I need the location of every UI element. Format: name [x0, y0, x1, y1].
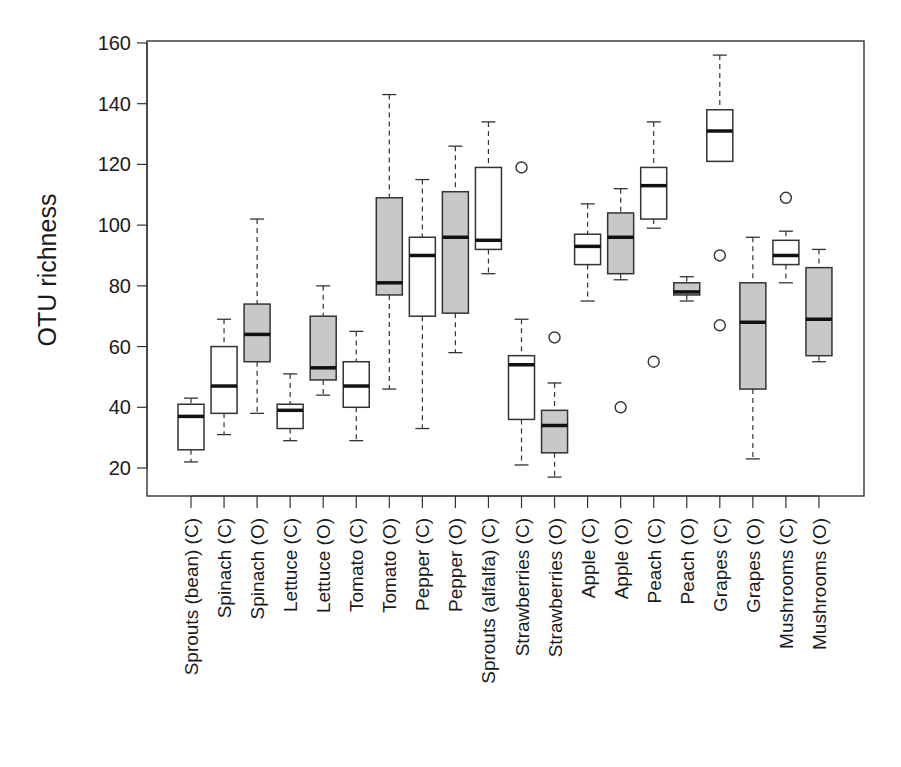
iqr-box: [211, 347, 237, 414]
box-7: [376, 95, 402, 389]
outlier-point: [780, 192, 791, 203]
iqr-box: [310, 316, 336, 380]
y-tick-label: 60: [109, 336, 131, 358]
outlier-point: [615, 402, 626, 413]
outlier-point: [648, 356, 659, 367]
y-axis-label: OTU richness: [33, 194, 61, 347]
x-tick-label: Pepper (O): [445, 518, 466, 612]
iqr-box: [575, 234, 601, 264]
outlier-point: [714, 250, 725, 261]
box-19: [773, 192, 799, 283]
boxplot-chart: 20406080100120140160 Sprouts (bean) (C)S…: [0, 0, 901, 767]
iqr-box: [442, 192, 468, 313]
box-1: [178, 398, 204, 462]
iqr-box: [608, 213, 634, 274]
box-11: [509, 162, 535, 465]
x-tick-label: Apple (C): [578, 518, 599, 598]
x-tick-label: Lettuce (C): [280, 518, 301, 612]
outlier-point: [549, 332, 560, 343]
box-18: [740, 237, 766, 459]
box-3: [244, 219, 270, 413]
box-9: [442, 146, 468, 352]
x-tick-label: Spinach (O): [247, 518, 268, 619]
x-tick-label: Grapes (O): [743, 518, 764, 613]
x-tick-label: Mushrooms (C): [776, 518, 797, 649]
x-tick-label: Strawberries (C): [512, 518, 533, 656]
box-16: [674, 277, 700, 301]
x-tick-label: Pepper (C): [412, 518, 433, 611]
y-axis: 20406080100120140160: [98, 32, 147, 479]
box-12: [542, 332, 568, 477]
plot-border: [147, 41, 864, 496]
box-6: [343, 331, 369, 440]
iqr-box: [409, 237, 435, 316]
plot-frame: [147, 41, 864, 496]
box-13: [575, 204, 601, 301]
x-axis: Sprouts (bean) (C)Spinach (C)Spinach (O)…: [181, 496, 830, 684]
box-17: [707, 55, 733, 331]
x-tick-label: Strawberries (O): [545, 518, 566, 657]
iqr-box: [542, 410, 568, 453]
y-tick-label: 80: [109, 275, 131, 297]
x-tick-label: Grapes (C): [710, 518, 731, 612]
x-tick-label: Mushrooms (O): [809, 518, 830, 650]
y-tick-label: 40: [109, 396, 131, 418]
outlier-point: [714, 320, 725, 331]
iqr-box: [707, 110, 733, 162]
y-tick-label: 140: [98, 93, 131, 115]
iqr-box: [806, 268, 832, 356]
box-5: [310, 286, 336, 395]
iqr-box: [740, 283, 766, 389]
x-tick-label: Apple (O): [611, 518, 632, 599]
iqr-box: [376, 198, 402, 295]
box-2: [211, 319, 237, 434]
outlier-point: [516, 162, 527, 173]
x-tick-label: Tomato (C): [346, 518, 367, 612]
iqr-box: [641, 167, 667, 219]
box-14: [608, 189, 634, 413]
box-20: [806, 249, 832, 361]
box-4: [277, 374, 303, 441]
boxes: [178, 55, 832, 477]
iqr-box: [277, 404, 303, 428]
y-tick-label: 20: [109, 457, 131, 479]
y-tick-label: 120: [98, 153, 131, 175]
x-tick-label: Tomato (O): [379, 518, 400, 613]
iqr-box: [178, 404, 204, 450]
x-tick-label: Sprouts (bean) (C): [181, 518, 202, 675]
iqr-box: [475, 167, 501, 249]
x-tick-label: Sprouts (alfalfa) (C): [478, 518, 499, 684]
box-15: [641, 122, 667, 367]
box-8: [409, 180, 435, 429]
box-10: [475, 122, 501, 274]
iqr-box: [773, 240, 799, 264]
y-tick-label: 160: [98, 32, 131, 54]
x-tick-label: Spinach (C): [214, 518, 235, 618]
x-tick-label: Peach (O): [677, 518, 698, 605]
x-tick-label: Peach (C): [644, 518, 665, 604]
x-tick-label: Lettuce (O): [313, 518, 334, 613]
y-tick-label: 100: [98, 214, 131, 236]
